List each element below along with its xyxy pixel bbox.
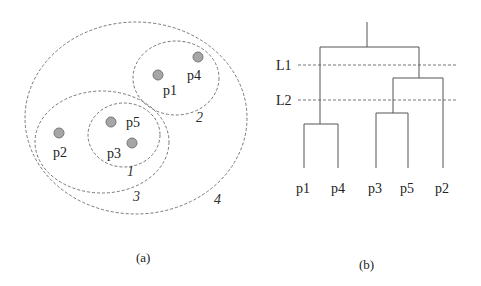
- dendrogram-root-branch: [320, 22, 419, 124]
- caption-a: (a): [136, 250, 150, 265]
- point-p4: [193, 52, 203, 62]
- leaf-label-p2: p2: [435, 181, 449, 196]
- point-p3: [127, 138, 137, 148]
- cluster-1-ellipse: [88, 103, 160, 167]
- point-p5: [106, 117, 116, 127]
- point-label-p4: p4: [187, 68, 201, 83]
- cut-label-l2: L2: [276, 93, 292, 108]
- dendrogram-branch-p2: [393, 78, 443, 168]
- point-p2: [54, 128, 64, 138]
- cluster-label-2: 2: [196, 110, 203, 125]
- leaf-label-p3: p3: [368, 181, 382, 196]
- panel-a-nested-clusters: p1 p4 p5 p3 p2 1 2 3 4 (a): [25, 22, 247, 265]
- cluster-label-1: 1: [127, 164, 134, 179]
- leaf-label-p1: p1: [296, 181, 310, 196]
- dendrogram-branch-p1-p4: [304, 124, 338, 168]
- cluster-2-ellipse: [133, 41, 219, 115]
- cluster-label-3: 3: [132, 189, 140, 204]
- panel-b-dendrogram: L1 L2 p1 p4 p3 p5 p2 (b): [276, 22, 458, 272]
- point-label-p3: p3: [107, 146, 121, 161]
- leaf-label-p5: p5: [400, 181, 414, 196]
- cluster-label-4: 4: [214, 192, 221, 207]
- point-p1: [153, 70, 163, 80]
- leaf-label-p4: p4: [331, 181, 345, 196]
- point-label-p2: p2: [53, 145, 67, 160]
- point-label-p1: p1: [163, 83, 177, 98]
- hierarchical-clustering-figure: p1 p4 p5 p3 p2 1 2 3 4 (a) L1 L2 p1 p4 p…: [0, 0, 481, 286]
- point-label-p5: p5: [126, 115, 140, 130]
- caption-b: (b): [359, 257, 374, 272]
- dendrogram-branch-p3-p5: [376, 113, 408, 168]
- cut-label-l1: L1: [276, 58, 292, 73]
